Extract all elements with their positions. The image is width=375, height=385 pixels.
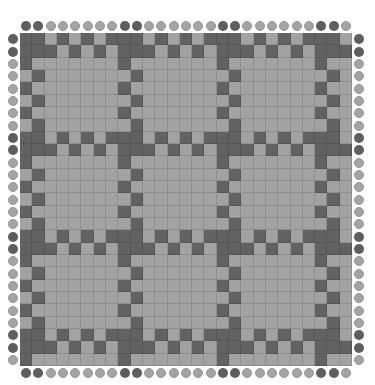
grid-cell[interactable] <box>266 267 278 279</box>
edge-circle-bottom[interactable] <box>316 368 326 378</box>
grid-cell[interactable] <box>20 255 32 267</box>
grid-cell[interactable] <box>180 317 192 329</box>
grid-cell[interactable] <box>278 243 290 255</box>
grid-cell[interactable] <box>45 82 57 94</box>
grid-cell[interactable] <box>229 230 241 242</box>
grid-cell[interactable] <box>106 107 118 119</box>
grid-cell[interactable] <box>204 292 216 304</box>
grid-cell[interactable] <box>94 33 106 45</box>
grid-cell[interactable] <box>106 267 118 279</box>
grid-cell[interactable] <box>106 230 118 242</box>
grid-cell[interactable] <box>143 218 155 230</box>
edge-circle-left[interactable] <box>8 318 18 328</box>
grid-cell[interactable] <box>69 156 81 168</box>
edge-circle-right[interactable] <box>354 330 364 340</box>
grid-cell[interactable] <box>254 255 266 267</box>
grid-cell[interactable] <box>106 255 118 267</box>
grid-cell[interactable] <box>57 341 69 353</box>
grid-cell[interactable] <box>143 329 155 341</box>
grid-cell[interactable] <box>254 354 266 366</box>
edge-circle-bottom[interactable] <box>120 368 130 378</box>
grid-cell[interactable] <box>217 317 229 329</box>
grid-cell[interactable] <box>254 341 266 353</box>
grid-cell[interactable] <box>327 45 339 57</box>
grid-cell[interactable] <box>57 82 69 94</box>
edge-circle-bottom[interactable] <box>292 368 302 378</box>
grid-cell[interactable] <box>254 292 266 304</box>
grid-cell[interactable] <box>204 317 216 329</box>
grid-cell[interactable] <box>118 45 130 57</box>
grid-cell[interactable] <box>291 58 303 70</box>
edge-circle-left[interactable] <box>8 34 18 44</box>
grid-cell[interactable] <box>315 292 327 304</box>
grid-cell[interactable] <box>20 329 32 341</box>
grid-cell[interactable] <box>266 169 278 181</box>
grid-cell[interactable] <box>32 169 44 181</box>
grid-cell[interactable] <box>118 193 130 205</box>
grid-cell[interactable] <box>57 292 69 304</box>
grid-cell[interactable] <box>45 243 57 255</box>
edge-circle-right[interactable] <box>354 133 364 143</box>
grid-cell[interactable] <box>278 206 290 218</box>
grid-cell[interactable] <box>327 280 339 292</box>
edge-circle-top[interactable] <box>156 21 166 31</box>
grid-cell[interactable] <box>315 82 327 94</box>
edge-circle-right[interactable] <box>354 293 364 303</box>
grid-cell[interactable] <box>340 70 352 82</box>
grid-cell[interactable] <box>106 193 118 205</box>
grid-cell[interactable] <box>266 95 278 107</box>
grid-cell[interactable] <box>180 95 192 107</box>
grid-cell[interactable] <box>217 169 229 181</box>
grid-cell[interactable] <box>106 169 118 181</box>
grid-cell[interactable] <box>106 70 118 82</box>
grid-cell[interactable] <box>180 230 192 242</box>
grid-cell[interactable] <box>278 280 290 292</box>
grid-cell[interactable] <box>81 156 93 168</box>
edge-circle-top[interactable] <box>255 21 265 31</box>
edge-circle-bottom[interactable] <box>21 368 31 378</box>
grid-cell[interactable] <box>32 119 44 131</box>
grid-cell[interactable] <box>180 304 192 316</box>
grid-cell[interactable] <box>143 45 155 57</box>
grid-cell[interactable] <box>266 45 278 57</box>
grid-cell[interactable] <box>45 95 57 107</box>
edge-circle-left[interactable] <box>8 182 18 192</box>
grid-cell[interactable] <box>315 354 327 366</box>
grid-cell[interactable] <box>168 95 180 107</box>
grid-cell[interactable] <box>303 255 315 267</box>
grid-cell[interactable] <box>81 45 93 57</box>
grid-cell[interactable] <box>131 280 143 292</box>
grid-cell[interactable] <box>168 33 180 45</box>
grid-cell[interactable] <box>168 107 180 119</box>
grid-cell[interactable] <box>192 193 204 205</box>
grid-cell[interactable] <box>315 33 327 45</box>
grid-cell[interactable] <box>32 317 44 329</box>
grid-cell[interactable] <box>303 292 315 304</box>
grid-cell[interactable] <box>143 341 155 353</box>
edge-circle-top[interactable] <box>120 21 130 31</box>
grid-cell[interactable] <box>168 317 180 329</box>
grid-cell[interactable] <box>131 304 143 316</box>
grid-cell[interactable] <box>229 58 241 70</box>
grid-cell[interactable] <box>217 119 229 131</box>
grid-cell[interactable] <box>204 329 216 341</box>
grid-cell[interactable] <box>204 132 216 144</box>
grid-cell[interactable] <box>340 132 352 144</box>
edge-circle-right[interactable] <box>354 207 364 217</box>
grid-cell[interactable] <box>118 58 130 70</box>
grid-cell[interactable] <box>155 304 167 316</box>
edge-circle-bottom[interactable] <box>242 368 252 378</box>
grid-cell[interactable] <box>291 218 303 230</box>
grid-cell[interactable] <box>291 82 303 94</box>
grid-cell[interactable] <box>69 304 81 316</box>
grid-cell[interactable] <box>143 193 155 205</box>
grid-cell[interactable] <box>303 58 315 70</box>
edge-circle-right[interactable] <box>354 59 364 69</box>
grid-cell[interactable] <box>266 33 278 45</box>
grid-cell[interactable] <box>254 206 266 218</box>
grid-cell[interactable] <box>266 156 278 168</box>
grid-cell[interactable] <box>131 218 143 230</box>
grid-cell[interactable] <box>94 82 106 94</box>
grid-cell[interactable] <box>180 119 192 131</box>
grid-cell[interactable] <box>69 107 81 119</box>
